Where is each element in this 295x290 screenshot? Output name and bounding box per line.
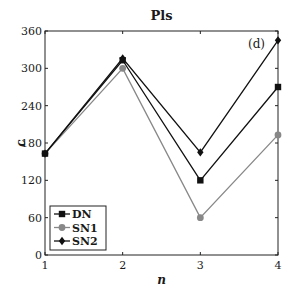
legend-marker-dn [59,211,65,217]
y-tick-label: 360 [21,25,42,38]
y-axis-label: c [14,139,28,147]
x-tick-label: 2 [119,259,126,272]
legend-label-sn1: SN1 [72,222,98,235]
legend-label-dn: DN [72,208,92,221]
x-tick-label: 1 [42,259,49,272]
y-tick-label: 60 [28,212,42,225]
chart-title: Pls [150,8,172,23]
legend-marker-sn1 [59,224,66,231]
series-line-sn2 [45,40,278,153]
y-tick-label: 300 [21,62,42,75]
data-point-sn1 [119,65,126,72]
series-line-dn [45,60,278,180]
line-chart: Pls0601201802403003601234nc(d)DNSN1SN2 [0,0,295,290]
data-point-sn1 [197,214,204,221]
panel-annotation: (d) [248,37,265,51]
data-point-sn1 [275,132,282,139]
x-tick-label: 3 [197,259,204,272]
data-point-dn [275,84,281,90]
x-tick-label: 4 [275,259,282,272]
x-axis-label: n [157,273,166,287]
y-tick-label: 240 [21,100,42,113]
data-point-dn [197,177,203,183]
legend-label-sn2: SN2 [72,235,98,248]
y-tick-label: 120 [21,174,42,187]
